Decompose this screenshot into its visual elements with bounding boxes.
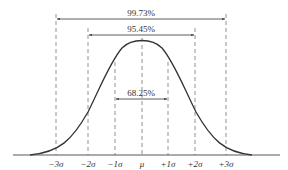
- label-95-45: 95.45%: [127, 24, 155, 34]
- axis-label-minus-1sigma: −1σ: [107, 159, 123, 169]
- normal-distribution-diagram: 99.73% 95.45% 68.25% −3σ −2σ −1σ μ +1σ +…: [0, 0, 288, 170]
- axis-label-minus-3sigma: −3σ: [48, 159, 64, 169]
- label-68-25: 68.25%: [127, 88, 155, 98]
- axis-label-plus-1sigma: +1σ: [160, 159, 176, 169]
- axis-label-plus-3sigma: +3σ: [218, 159, 234, 169]
- axis-label-minus-2sigma: −2σ: [80, 159, 96, 169]
- axis-label-plus-2sigma: +2σ: [187, 159, 203, 169]
- label-99-73: 99.73%: [127, 8, 155, 18]
- axis-label-mu: μ: [139, 159, 145, 169]
